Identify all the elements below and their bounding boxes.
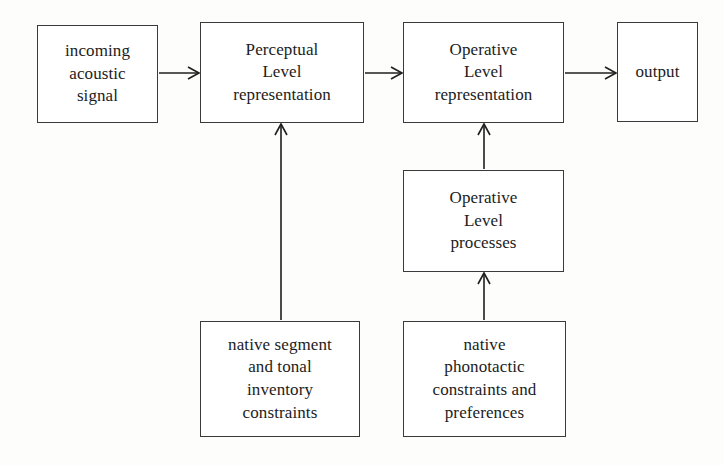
arrowhead-signal-to-perceptual <box>188 67 199 79</box>
node-operative-level-processes[interactable]: Operative Level processes <box>403 170 564 272</box>
edge-inventory-to-perceptual <box>275 124 287 320</box>
node-perceptual-level-representation[interactable]: Perceptual Level representation <box>200 22 364 123</box>
arrowhead-inventory-to-perceptual <box>275 124 287 135</box>
node-label-output: output <box>631 61 683 84</box>
node-operative-level-representation[interactable]: Operative Level representation <box>403 22 564 123</box>
edge-signal-to-perceptual <box>159 67 199 79</box>
node-native-segment-and-tonal-inventory-constraints[interactable]: native segment and tonal inventory const… <box>200 321 360 437</box>
arrowhead-phonotactic-to-processes <box>478 273 490 284</box>
node-native-phonotactic-constraints-and-preferences[interactable]: native phonotactic constraints and prefe… <box>403 321 566 437</box>
node-label-operative-level-representation: Operative Level representation <box>431 39 537 107</box>
edge-phonotactic-to-processes <box>478 273 490 320</box>
node-label-incoming-acoustic-signal: incoming acoustic signal <box>61 40 134 108</box>
node-label-native-segment-and-tonal-inventory-constraints: native segment and tonal inventory const… <box>224 334 336 424</box>
node-label-operative-level-processes: Operative Level processes <box>446 187 522 255</box>
arrowhead-processes-to-operative-representation <box>478 124 490 135</box>
edge-operative-to-output <box>565 67 616 79</box>
node-incoming-acoustic-signal[interactable]: incoming acoustic signal <box>37 25 158 123</box>
arrowhead-operative-to-output <box>605 67 616 79</box>
flowchart-diagram: incoming acoustic signalPerceptual Level… <box>0 0 724 465</box>
node-label-perceptual-level-representation: Perceptual Level representation <box>229 39 335 107</box>
edge-perceptual-to-operative <box>365 67 402 79</box>
node-output[interactable]: output <box>617 22 698 122</box>
edge-processes-to-operative-representation <box>478 124 490 169</box>
node-label-native-phonotactic-constraints-and-preferences: native phonotactic constraints and prefe… <box>429 334 541 424</box>
arrowhead-perceptual-to-operative <box>391 67 402 79</box>
